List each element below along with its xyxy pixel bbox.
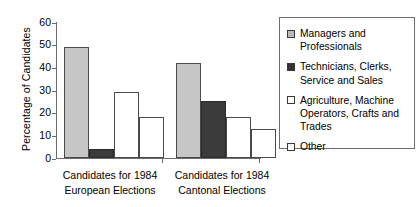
x-label-group-1-line-2: European Elections — [56, 183, 164, 198]
legend-item-technicians: Technicians, Clerks, Service and Sales — [287, 60, 408, 86]
legend-label-agriculture-line-2: Operators, Crafts and — [300, 108, 399, 119]
bar-g2-technicians — [201, 101, 226, 158]
chart-legend: Managers and Professionals Technicians, … — [279, 17, 415, 149]
y-tick-label-60: 60 — [39, 16, 51, 29]
y-tick-label-0: 0 — [45, 152, 51, 165]
y-tick-label-30: 30 — [39, 84, 51, 97]
legend-label-managers: Managers and Professionals — [300, 27, 366, 53]
legend-label-technicians-line-1: Technicians, Clerks, — [300, 61, 392, 72]
x-label-group-2: Candidates for 1984 Cantonal Elections — [168, 168, 276, 197]
legend-label-managers-line-2: Professionals — [300, 41, 362, 52]
bar-g1-other — [139, 117, 164, 158]
x-label-group-2-line-2: Cantonal Elections — [168, 183, 276, 198]
x-label-group-1: Candidates for 1984 European Elections — [56, 168, 164, 197]
bar-g2-other — [251, 129, 276, 158]
y-axis-line — [56, 22, 57, 159]
x-axis-end-tick — [259, 158, 260, 163]
legend-label-managers-line-1: Managers and — [300, 28, 366, 39]
x-axis-line — [56, 158, 261, 159]
legend-label-agriculture: Agriculture, Machine Operators, Crafts a… — [300, 94, 399, 134]
legend-swatch-technicians-icon — [287, 63, 295, 71]
legend-label-agriculture-line-1: Agriculture, Machine — [300, 95, 394, 106]
chart-container: Percentage of Candidates 60 50 40 30 20 … — [0, 0, 417, 207]
legend-label-technicians-line-2: Service and Sales — [300, 75, 383, 86]
bar-g1-managers — [64, 47, 89, 158]
bar-g2-agriculture — [226, 117, 251, 158]
y-axis-title: Percentage of Candidates — [20, 14, 32, 164]
bar-g1-technicians — [89, 149, 114, 158]
bar-g2-managers — [176, 63, 201, 158]
x-group-separator-tick — [162, 158, 163, 163]
legend-label-other-line-1: Other — [300, 141, 326, 152]
legend-swatch-other-icon — [287, 143, 295, 151]
y-tick-label-10: 10 — [39, 129, 51, 142]
legend-swatch-agriculture-icon — [287, 96, 295, 104]
legend-swatch-managers-icon — [287, 30, 295, 38]
legend-label-agriculture-line-3: Trades — [300, 121, 332, 132]
legend-item-agriculture: Agriculture, Machine Operators, Crafts a… — [287, 94, 408, 134]
y-tick-label-50: 50 — [39, 38, 51, 51]
legend-item-other: Other — [287, 140, 408, 153]
legend-label-other: Other — [300, 140, 326, 153]
x-label-group-2-line-1: Candidates for 1984 — [168, 168, 276, 183]
x-label-group-1-line-1: Candidates for 1984 — [56, 168, 164, 183]
y-tick-label-40: 40 — [39, 61, 51, 74]
y-tick-label-20: 20 — [39, 106, 51, 119]
bar-g1-agriculture — [114, 92, 139, 158]
plot-area: 60 50 40 30 20 10 0 — [56, 22, 261, 159]
legend-label-technicians: Technicians, Clerks, Service and Sales — [300, 60, 392, 86]
legend-item-managers: Managers and Professionals — [287, 27, 408, 53]
